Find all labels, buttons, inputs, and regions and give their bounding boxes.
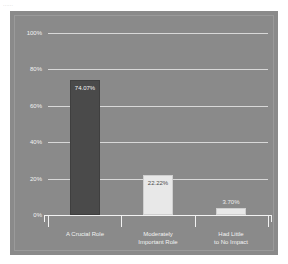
x-axis-right-cap bbox=[271, 215, 272, 222]
x-axis-line bbox=[44, 215, 272, 216]
clipped-top-text: ...... bbox=[3, 0, 73, 8]
y-axis-tick-label: 40% bbox=[16, 139, 42, 145]
bar[interactable] bbox=[70, 80, 100, 215]
x-axis-left-cap bbox=[44, 215, 45, 222]
category-label-line: Had Little bbox=[196, 230, 266, 238]
category-label-line: A Crucial Role bbox=[50, 230, 120, 238]
bar-value-label: 3.70% bbox=[208, 199, 254, 205]
bar-value-label: 74.07% bbox=[62, 85, 108, 91]
x-axis-tick-mark bbox=[121, 216, 122, 227]
chart-panel: 100%80%60%40%20%0% 74.07%22.22%3.70% A C… bbox=[10, 11, 278, 255]
x-axis-category-label: ModeratelyImportant Role bbox=[123, 230, 193, 246]
bar-value-label: 22.22% bbox=[135, 180, 181, 186]
x-axis-category-label: Had Littleto No Impact bbox=[196, 230, 266, 246]
x-axis-category-label: A Crucial Role bbox=[50, 230, 120, 238]
plot-area bbox=[48, 33, 268, 215]
category-label-line: to No Impact bbox=[196, 238, 266, 246]
y-axis-tick-label: 20% bbox=[16, 176, 42, 182]
category-label-line: Important Role bbox=[123, 238, 193, 246]
x-axis-tick-mark bbox=[195, 216, 196, 227]
x-axis-tick-mark bbox=[268, 216, 269, 227]
y-axis-tick-label: 100% bbox=[16, 30, 42, 36]
y-axis-tick-label: 60% bbox=[16, 103, 42, 109]
y-axis-tick-label: 0% bbox=[16, 212, 42, 218]
y-axis-tick-label: 80% bbox=[16, 66, 42, 72]
chart-screenshot: ...... 100%80%60%40%20%0% 74.07%22.22%3.… bbox=[0, 0, 288, 264]
x-axis-tick-mark bbox=[48, 216, 49, 227]
bar[interactable] bbox=[216, 208, 246, 215]
category-label-line: Moderately bbox=[123, 230, 193, 238]
